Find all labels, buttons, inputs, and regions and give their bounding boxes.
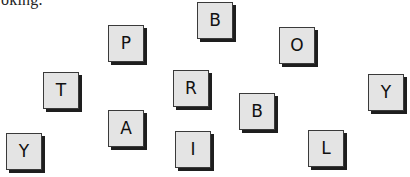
letter-tile-o: O (279, 27, 315, 64)
letter-tile-l: L (308, 130, 344, 167)
letter-tile-r: R (173, 70, 209, 107)
letter-tile-t: T (43, 72, 79, 109)
letter-tile-p: P (108, 25, 144, 62)
letter-tile-b-middle: B (239, 93, 275, 130)
tile-letter: P (121, 35, 131, 52)
letter-tile-b-top: B (197, 2, 233, 39)
tile-letter: T (56, 82, 66, 99)
letter-tile-y-left: Y (6, 133, 42, 170)
text-fragment: oking. (1, 0, 43, 9)
tile-letter: L (321, 140, 330, 157)
tile-letter: R (185, 80, 197, 97)
letter-tile-y-right: Y (368, 74, 404, 111)
tile-letter: A (120, 120, 132, 137)
tile-letter: O (290, 37, 303, 54)
letter-tile-i: I (175, 131, 211, 168)
letter-tile-a: A (108, 110, 144, 147)
tile-letter: B (251, 103, 263, 120)
tile-letter: B (209, 12, 221, 29)
tile-letter: Y (381, 84, 391, 101)
tile-letter: I (190, 141, 195, 158)
tile-letter: Y (19, 143, 29, 160)
